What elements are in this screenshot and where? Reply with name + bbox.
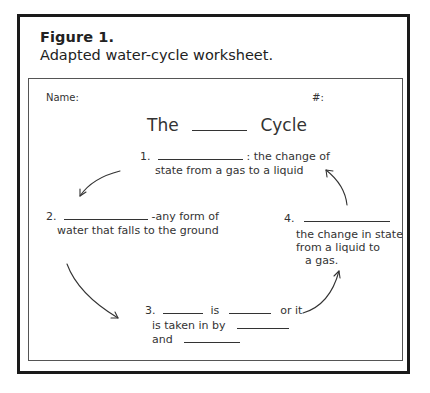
arrow-step3-to-step4 [303,271,339,313]
arrow-step2-to-step3 [67,264,118,318]
arrow-step4-to-step1 [326,170,347,205]
cycle-arrows [0,0,430,393]
